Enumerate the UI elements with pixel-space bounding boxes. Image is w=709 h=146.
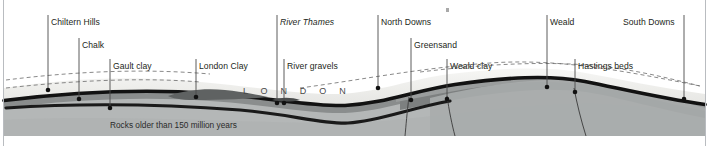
diagram-frame <box>3 0 706 146</box>
geological-cross-section-diagram: Chiltern HillsChalkGault clayLondon Clay… <box>0 0 709 146</box>
